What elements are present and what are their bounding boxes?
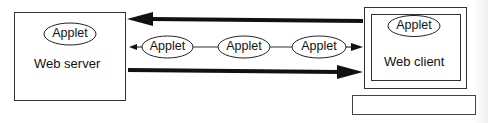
- transfer-applet-3-label: Applet: [292, 40, 346, 53]
- middle-right-arrowhead: [346, 43, 363, 51]
- middle-left-arrowhead: [129, 44, 142, 50]
- client-applet-label: Applet: [388, 19, 440, 32]
- bottom-arrow-to-client: [128, 65, 363, 79]
- web-client-label: Web client: [384, 54, 444, 69]
- server-applet-label: Applet: [44, 27, 96, 40]
- web-server-label: Web server: [34, 56, 100, 71]
- keyboard-base: [353, 96, 476, 115]
- top-arrow-to-server: [127, 12, 363, 26]
- transfer-applet-2-label: Applet: [218, 40, 270, 53]
- transfer-applet-1-label: Applet: [142, 40, 193, 53]
